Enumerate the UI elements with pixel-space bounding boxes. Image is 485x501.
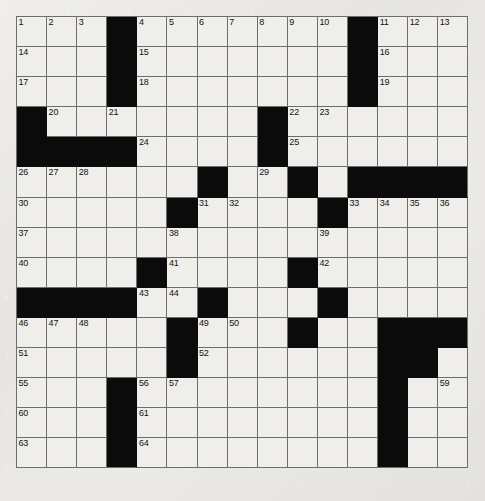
crossword-cell[interactable]: 47	[47, 318, 77, 348]
crossword-cell[interactable]: 9	[288, 17, 318, 47]
crossword-cell[interactable]	[167, 107, 197, 137]
crossword-cell[interactable]	[167, 137, 197, 167]
crossword-cell[interactable]: 27	[47, 167, 77, 197]
crossword-cell[interactable]: 51	[17, 348, 47, 378]
crossword-cell[interactable]	[348, 348, 378, 378]
crossword-cell[interactable]	[198, 47, 228, 77]
crossword-cell[interactable]: 24	[137, 137, 167, 167]
crossword-cell[interactable]	[107, 167, 137, 197]
crossword-cell[interactable]	[258, 198, 288, 228]
crossword-cell[interactable]	[228, 408, 258, 438]
crossword-cell[interactable]	[47, 378, 77, 408]
crossword-cell[interactable]	[198, 438, 228, 468]
crossword-cell[interactable]: 56	[137, 378, 167, 408]
crossword-cell[interactable]	[228, 228, 258, 258]
crossword-cell[interactable]	[408, 47, 438, 77]
crossword-cell[interactable]: 28	[77, 167, 107, 197]
crossword-cell[interactable]	[198, 77, 228, 107]
crossword-cell[interactable]	[77, 408, 107, 438]
crossword-cell[interactable]: 11	[378, 17, 408, 47]
crossword-cell[interactable]	[318, 438, 348, 468]
crossword-cell[interactable]	[107, 198, 137, 228]
crossword-cell[interactable]	[77, 198, 107, 228]
crossword-cell[interactable]	[258, 228, 288, 258]
crossword-cell[interactable]: 5	[167, 17, 197, 47]
crossword-cell[interactable]	[228, 378, 258, 408]
crossword-cell[interactable]: 48	[77, 318, 107, 348]
crossword-cell[interactable]: 25	[288, 137, 318, 167]
crossword-cell[interactable]	[348, 288, 378, 318]
crossword-cell[interactable]	[198, 408, 228, 438]
crossword-cell[interactable]	[438, 258, 468, 288]
crossword-cell[interactable]	[408, 288, 438, 318]
crossword-cell[interactable]	[408, 408, 438, 438]
crossword-cell[interactable]	[348, 438, 378, 468]
crossword-cell[interactable]	[378, 137, 408, 167]
crossword-cell[interactable]	[228, 167, 258, 197]
crossword-cell[interactable]	[198, 378, 228, 408]
crossword-cell[interactable]: 44	[167, 288, 197, 318]
crossword-cell[interactable]: 59	[438, 378, 468, 408]
crossword-cell[interactable]	[348, 107, 378, 137]
crossword-cell[interactable]: 1	[17, 17, 47, 47]
crossword-cell[interactable]	[258, 47, 288, 77]
crossword-cell[interactable]: 55	[17, 378, 47, 408]
crossword-cell[interactable]: 50	[228, 318, 258, 348]
crossword-cell[interactable]: 64	[137, 438, 167, 468]
crossword-cell[interactable]	[288, 408, 318, 438]
crossword-cell[interactable]	[258, 438, 288, 468]
crossword-cell[interactable]: 13	[438, 17, 468, 47]
crossword-cell[interactable]	[47, 228, 77, 258]
crossword-cell[interactable]	[77, 228, 107, 258]
crossword-cell[interactable]	[438, 348, 468, 378]
crossword-cell[interactable]: 19	[378, 77, 408, 107]
crossword-cell[interactable]	[47, 47, 77, 77]
crossword-cell[interactable]	[47, 77, 77, 107]
crossword-cell[interactable]: 10	[318, 17, 348, 47]
crossword-cell[interactable]	[198, 228, 228, 258]
crossword-cell[interactable]	[258, 378, 288, 408]
crossword-cell[interactable]	[348, 408, 378, 438]
crossword-cell[interactable]	[438, 107, 468, 137]
crossword-cell[interactable]	[137, 107, 167, 137]
crossword-cell[interactable]	[288, 288, 318, 318]
crossword-cell[interactable]	[47, 198, 77, 228]
crossword-cell[interactable]	[348, 258, 378, 288]
crossword-cell[interactable]	[107, 258, 137, 288]
crossword-cell[interactable]	[318, 167, 348, 197]
crossword-cell[interactable]: 17	[17, 77, 47, 107]
crossword-cell[interactable]	[47, 438, 77, 468]
crossword-cell[interactable]	[77, 258, 107, 288]
crossword-cell[interactable]: 4	[137, 17, 167, 47]
crossword-cell[interactable]	[288, 198, 318, 228]
crossword-cell[interactable]	[348, 318, 378, 348]
crossword-cell[interactable]	[378, 228, 408, 258]
crossword-cell[interactable]	[288, 378, 318, 408]
crossword-cell[interactable]	[167, 47, 197, 77]
crossword-grid[interactable]: 1234567891011121314151617181920212223242…	[16, 16, 468, 468]
crossword-cell[interactable]	[348, 228, 378, 258]
crossword-cell[interactable]	[228, 348, 258, 378]
crossword-cell[interactable]	[408, 137, 438, 167]
crossword-cell[interactable]	[288, 228, 318, 258]
crossword-cell[interactable]	[258, 318, 288, 348]
crossword-cell[interactable]	[198, 258, 228, 288]
crossword-cell[interactable]: 3	[77, 17, 107, 47]
crossword-cell[interactable]: 14	[17, 47, 47, 77]
crossword-cell[interactable]	[167, 167, 197, 197]
crossword-cell[interactable]	[198, 137, 228, 167]
crossword-cell[interactable]	[77, 378, 107, 408]
crossword-cell[interactable]: 32	[228, 198, 258, 228]
crossword-cell[interactable]: 7	[228, 17, 258, 47]
crossword-cell[interactable]	[438, 408, 468, 438]
crossword-cell[interactable]: 15	[137, 47, 167, 77]
crossword-cell[interactable]	[258, 288, 288, 318]
crossword-cell[interactable]	[137, 228, 167, 258]
crossword-cell[interactable]	[438, 47, 468, 77]
crossword-cell[interactable]: 12	[408, 17, 438, 47]
crossword-cell[interactable]	[77, 47, 107, 77]
crossword-cell[interactable]: 8	[258, 17, 288, 47]
crossword-cell[interactable]: 43	[137, 288, 167, 318]
crossword-cell[interactable]: 22	[288, 107, 318, 137]
crossword-cell[interactable]	[318, 77, 348, 107]
